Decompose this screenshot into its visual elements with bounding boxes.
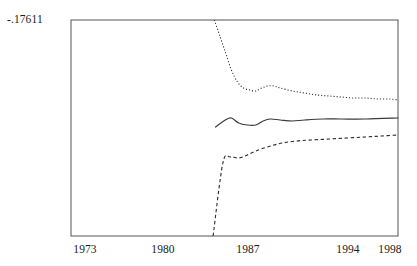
chart-figure: -.17611 1973 1980 1987 1994 1998 <box>0 0 417 266</box>
chart-plot-area <box>0 0 417 266</box>
series-lower-band <box>213 135 398 236</box>
x-axis-tick-label-1980: 1980 <box>151 243 174 255</box>
plot-frame <box>71 20 398 236</box>
series-upper-band <box>214 20 398 100</box>
x-axis-tick-label-1998: 1998 <box>378 243 401 255</box>
y-axis-tick-label: -.17611 <box>7 13 43 25</box>
x-axis-tick-label-1987: 1987 <box>236 243 259 255</box>
series-point-estimate <box>216 118 398 127</box>
x-axis-tick-label-1973: 1973 <box>73 243 96 255</box>
x-axis-tick-label-1994: 1994 <box>336 243 359 255</box>
